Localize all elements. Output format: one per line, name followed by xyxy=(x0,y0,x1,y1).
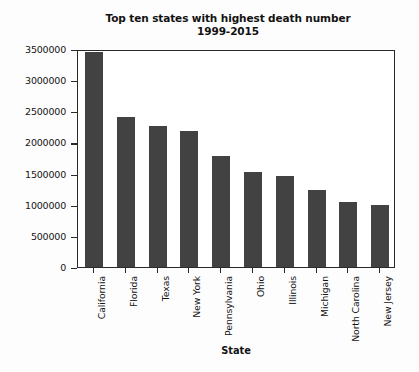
bar xyxy=(276,176,294,267)
bar xyxy=(149,126,167,267)
x-tick-label: New York xyxy=(192,276,202,318)
chart-title: Top ten states with highest death number… xyxy=(60,12,396,38)
bar xyxy=(244,172,262,267)
x-tick-label: Illinois xyxy=(288,276,298,305)
x-tick-label: North Carolina xyxy=(351,276,361,342)
y-tick-label: 500000 xyxy=(4,232,66,242)
figure: Top ten states with highest death number… xyxy=(0,0,419,372)
bar xyxy=(117,117,135,267)
x-tick-label: California xyxy=(97,276,107,319)
x-tick-label: New Jersey xyxy=(383,276,393,327)
x-tick-label: Ohio xyxy=(256,276,266,297)
y-tick-label: 2000000 xyxy=(4,138,66,148)
x-tick-mark xyxy=(125,268,126,273)
x-tick-mark xyxy=(316,268,317,273)
bars-layer xyxy=(78,51,394,267)
x-tick-mark xyxy=(157,268,158,273)
x-tick-mark xyxy=(379,268,380,273)
chart-title-line1: Top ten states with highest death number xyxy=(106,12,351,24)
bar xyxy=(308,190,326,267)
y-tick-label: 3500000 xyxy=(4,45,66,55)
y-tick-label: 0 xyxy=(4,263,66,273)
x-tick-mark xyxy=(93,268,94,273)
bar xyxy=(212,156,230,267)
x-tick-mark xyxy=(220,268,221,273)
bar xyxy=(371,205,389,267)
x-tick-mark xyxy=(188,268,189,273)
x-tick-label: Texas xyxy=(161,276,171,301)
bar xyxy=(85,52,103,267)
x-tick-mark xyxy=(252,268,253,273)
y-tick-label: 2500000 xyxy=(4,107,66,117)
y-tick-label: 1000000 xyxy=(4,201,66,211)
y-tick-label: 1500000 xyxy=(4,170,66,180)
x-tick-label: Pennsylvania xyxy=(224,276,234,336)
x-tick-label: Michigan xyxy=(320,276,330,317)
bar xyxy=(180,131,198,267)
x-tick-label: Florida xyxy=(129,276,139,307)
bar xyxy=(339,202,357,267)
chart-title-line2: 1999-2015 xyxy=(60,25,396,38)
x-axis-title: State xyxy=(77,345,395,356)
plot-area xyxy=(77,50,395,268)
x-tick-mark xyxy=(284,268,285,273)
x-tick-mark xyxy=(347,268,348,273)
y-tick-label: 3000000 xyxy=(4,76,66,86)
y-axis: 0500000100000015000002000000250000030000… xyxy=(0,50,77,268)
